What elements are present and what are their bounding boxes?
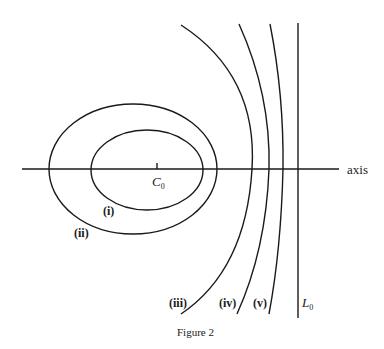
label-ii: (ii)	[74, 226, 89, 240]
label-iii: (iii)	[169, 296, 187, 310]
label-i: (i)	[103, 204, 114, 218]
l0-label: L0	[301, 295, 313, 312]
diagram-canvas: axis C0 (i) (ii) (iii) (iv) (v) L0 Figur…	[0, 0, 384, 349]
figure-caption: Figure 2	[177, 326, 214, 338]
figure-2-diagram: axis C0 (i) (ii) (iii) (iv) (v) L0 Figur…	[0, 0, 384, 349]
center-label: C0	[152, 174, 165, 191]
axis-label: axis	[347, 162, 368, 177]
curve-i-inner-ellipse	[91, 130, 203, 210]
label-v: (v)	[253, 296, 267, 310]
label-iv: (iv)	[219, 296, 236, 310]
